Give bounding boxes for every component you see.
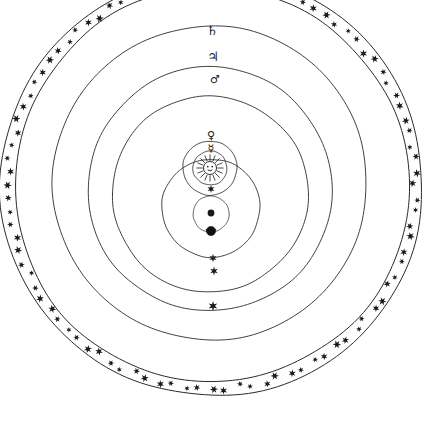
sun-ray <box>201 173 205 177</box>
fixed-star <box>383 279 391 288</box>
fixed-star <box>192 383 201 392</box>
orbit-marker-star-jupiter <box>210 267 218 276</box>
fixed-star <box>406 222 415 231</box>
sun-face-eye-right <box>211 166 213 168</box>
fixed-star <box>53 46 63 56</box>
fixed-star <box>413 196 421 204</box>
cosmology-diagram: ♄♃♂♀☿ <box>0 0 436 436</box>
orbit-saturn <box>52 26 366 340</box>
fixed-star <box>107 359 115 368</box>
orbit-marker-star-saturn <box>209 301 218 311</box>
fixed-star <box>341 336 349 345</box>
fixed-star <box>94 346 105 357</box>
fixed-star <box>72 333 81 342</box>
fixed-star <box>405 231 416 242</box>
moon-body <box>206 226 216 235</box>
sun-marker-star <box>208 185 215 193</box>
tychonic-system-svg: ♄♃♂♀☿ <box>0 0 436 436</box>
fixed-star <box>4 194 12 202</box>
fixed-star <box>53 315 61 324</box>
fixed-star <box>299 0 308 7</box>
fixed-star <box>27 92 34 99</box>
fixed-star <box>6 220 14 228</box>
fixed-star <box>407 144 412 150</box>
fixed-star <box>379 68 388 77</box>
sun-ray <box>217 171 222 173</box>
fixed-star <box>400 248 408 257</box>
fixed-star <box>6 208 14 216</box>
fixed-star <box>118 0 124 6</box>
fixed-star <box>220 386 227 394</box>
fixed-star <box>391 273 399 281</box>
orbit-marker-star-group <box>209 254 218 311</box>
fixed-star <box>345 28 351 35</box>
fixed-star <box>2 180 13 191</box>
fixed-star <box>330 20 339 29</box>
sun-ray <box>217 163 222 165</box>
fixed-star <box>184 385 190 392</box>
sun-ray <box>215 173 219 177</box>
fixed-star <box>352 35 361 44</box>
fixed-star <box>36 294 44 303</box>
fixed-star <box>209 384 219 395</box>
fixed-star <box>31 284 39 293</box>
fixed-star <box>39 68 46 76</box>
fixed-star <box>392 91 401 100</box>
planet-orbit-group <box>52 26 366 340</box>
fixed-star <box>358 315 365 323</box>
fixed-star <box>377 296 388 307</box>
fixed-star <box>263 379 273 389</box>
fixed-star <box>398 258 406 266</box>
planet-glyph-group: ♄♃♂♀☿ <box>206 23 220 156</box>
fixed-star <box>30 78 38 86</box>
fixed-star <box>17 261 25 270</box>
sun-ray <box>198 171 203 173</box>
orbit-mars <box>112 96 308 292</box>
sun-face-eye-left <box>207 166 209 168</box>
fixed-star <box>45 54 55 65</box>
fixed-star <box>405 126 413 135</box>
fixed-star <box>373 304 380 312</box>
fixed-star <box>8 141 16 149</box>
fixed-star <box>66 327 71 333</box>
sun-ray <box>213 175 215 180</box>
fixed-star <box>4 154 11 162</box>
planet-glyph-saturn: ♄ <box>206 23 218 38</box>
fixed-star <box>383 80 389 86</box>
sun-ray <box>198 163 203 165</box>
fixed-star <box>13 244 24 255</box>
fixed-star <box>394 100 405 111</box>
fixed-star <box>288 369 296 378</box>
fixed-star <box>14 129 21 137</box>
planet-glyph-mercury: ☿ <box>208 142 215 155</box>
moon-disc <box>206 226 215 235</box>
fixed-star <box>319 352 329 362</box>
fixed-star <box>83 18 93 28</box>
planet-glyph-venus: ♀ <box>207 129 215 142</box>
fixed-star <box>116 366 122 372</box>
planet-glyph-mars: ♂ <box>210 73 220 86</box>
fixed-star <box>297 366 305 374</box>
fixed-star <box>321 10 331 21</box>
fixed-star <box>236 380 244 388</box>
sun-ray <box>215 159 219 163</box>
fixed-star <box>355 325 363 333</box>
fixed-star <box>14 233 22 242</box>
planet-glyph-jupiter: ♃ <box>207 49 219 64</box>
fixed-star <box>67 38 73 45</box>
fixed-star <box>18 102 28 112</box>
fixed-star <box>167 379 175 388</box>
fixed-star <box>412 206 420 213</box>
fixed-star <box>247 383 253 390</box>
fixed-star <box>312 356 319 363</box>
fixed-star <box>5 167 15 177</box>
fixed-star <box>140 373 150 383</box>
fixed-star <box>401 116 410 126</box>
earth-body <box>208 210 215 217</box>
fixed-star <box>71 26 79 34</box>
fixed-star <box>331 339 342 350</box>
fixed-star <box>11 113 22 124</box>
sun-ray <box>205 175 207 180</box>
sun-disc <box>204 162 217 175</box>
fixed-star <box>309 4 317 13</box>
